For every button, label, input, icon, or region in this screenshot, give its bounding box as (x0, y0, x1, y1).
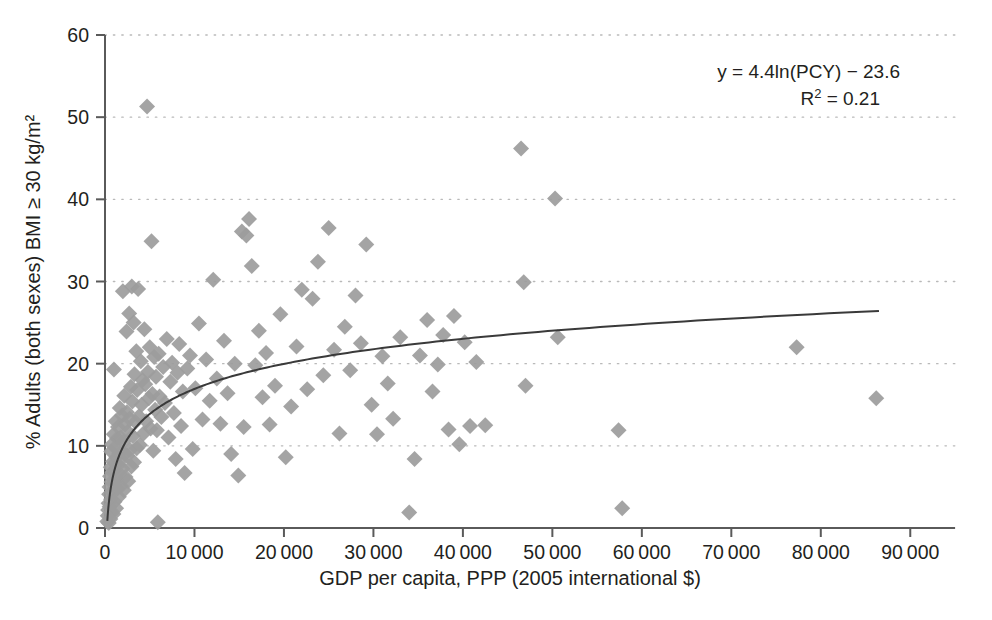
scatter-chart: 0102030405060 010 00020 00030 00040 0005… (0, 0, 992, 620)
x-axis-tick-label: 60 000 (613, 541, 671, 563)
x-axis-tick-label: 20 000 (255, 541, 313, 563)
x-axis-tick-label: 90 000 (881, 541, 939, 563)
x-axis-tick-label: 10 000 (165, 541, 223, 563)
y-axis-tick-label: 30 (67, 271, 89, 293)
chart-canvas: 0102030405060 010 00020 00030 00040 0005… (0, 0, 992, 620)
x-axis-title: GDP per capita, PPP (2005 international … (319, 567, 701, 589)
y-axis-tick-label: 0 (78, 517, 89, 539)
y-axis-tick-label: 40 (67, 188, 89, 210)
x-axis-tick-label: 40 000 (434, 541, 492, 563)
y-axis-tick-label: 20 (67, 353, 89, 375)
y-axis-tick-label: 10 (67, 435, 89, 457)
x-axis-tick-label: 80 000 (792, 541, 850, 563)
y-axis-tick-label: 60 (67, 24, 89, 46)
x-axis-tick-label: 30 000 (344, 541, 402, 563)
y-axis-tick-label: 50 (67, 106, 89, 128)
trendline-equation-label: y = 4.4ln(PCY) − 23.6 (717, 61, 900, 82)
x-axis-tick-label: 70 000 (702, 541, 760, 563)
r-squared-label: R2 = 0.21 (800, 86, 880, 109)
y-axis-title: % Adults (both sexes) BMI ≥ 30 kg/m² (22, 114, 44, 449)
x-axis-tick-label: 0 (100, 541, 111, 563)
x-axis-tick-label: 50 000 (523, 541, 581, 563)
